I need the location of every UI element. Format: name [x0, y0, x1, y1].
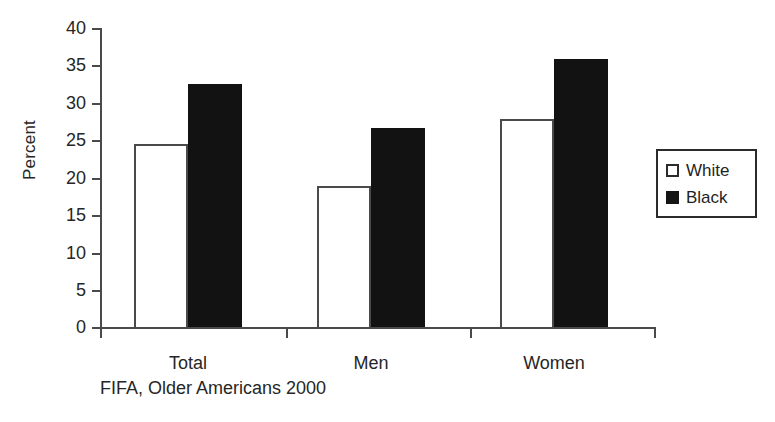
y-tick-label-15: 15 [38, 206, 86, 224]
legend-item-white: White [666, 157, 755, 184]
y-tick-5 [92, 290, 101, 292]
y-tick-15 [92, 215, 101, 217]
y-tick-label-10: 10 [38, 244, 86, 262]
legend-label-white: White [686, 162, 729, 179]
bar-total-white [134, 144, 188, 329]
bar-women-white [500, 119, 554, 329]
y-tick-label-0: 0 [38, 318, 86, 336]
x-tick-1 [286, 329, 288, 338]
x-tick-0 [100, 329, 102, 338]
y-tick-30 [92, 103, 101, 105]
x-tick-2 [470, 329, 472, 338]
chart-caption: FIFA, Older Americans 2000 [100, 378, 326, 399]
bar-women-black [554, 59, 608, 329]
bar-chart-figure: Percent 40 35 30 25 20 15 10 5 0 Total M… [0, 0, 775, 422]
y-tick-35 [92, 65, 101, 67]
legend: White Black [656, 149, 757, 218]
y-tick-label-5: 5 [38, 281, 86, 299]
open-square-swatch-icon [666, 164, 679, 177]
y-axis-title: Percent [20, 90, 40, 210]
y-tick-label-20: 20 [38, 169, 86, 187]
y-tick-10 [92, 253, 101, 255]
x-label-total: Total [108, 353, 268, 374]
y-tick-20 [92, 178, 101, 180]
y-tick-40 [92, 28, 101, 30]
y-tick-label-35: 35 [38, 56, 86, 74]
x-label-women: Women [474, 353, 634, 374]
y-tick-label-40: 40 [38, 19, 86, 37]
bar-men-white [317, 186, 371, 329]
legend-label-black: Black [686, 189, 728, 206]
x-axis-line [100, 327, 656, 329]
y-tick-label-30: 30 [38, 94, 86, 112]
x-tick-3 [654, 329, 656, 338]
bar-men-black [371, 128, 425, 329]
x-label-men: Men [291, 353, 451, 374]
y-tick-label-25: 25 [38, 131, 86, 149]
bar-total-black [188, 84, 242, 329]
filled-square-swatch-icon [666, 191, 679, 204]
y-tick-25 [92, 140, 101, 142]
legend-item-black: Black [666, 184, 755, 211]
